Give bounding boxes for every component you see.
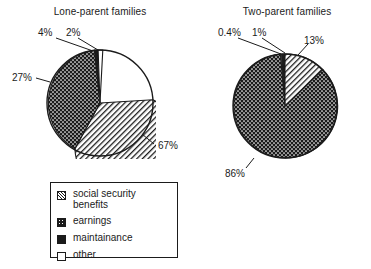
pie-right-label-other: 0.4% <box>218 27 241 38</box>
legend-item-other: other <box>57 249 177 265</box>
pie-chart-figure: Lone-parent families Two-parent families <box>0 0 371 269</box>
pie-right-label-maintainance: 1% <box>252 27 266 38</box>
pie-chart-two-parent <box>231 52 339 160</box>
pie-left-label-earnings: 27% <box>12 72 32 83</box>
pie-left-label-other: 2% <box>66 27 80 38</box>
legend-swatch-dotted-fill-icon <box>57 218 66 227</box>
legend-item-earnings: earnings <box>57 215 177 231</box>
pie-right-label-social-security-benefits: 13% <box>304 35 324 46</box>
pie-right-svg <box>231 52 339 160</box>
legend: social security benefits earnings mainta… <box>50 182 178 258</box>
legend-items: social security benefits earnings mainta… <box>51 183 177 265</box>
legend-swatch-solid-black-icon <box>57 235 66 244</box>
legend-item-social-security-benefits: social security benefits <box>57 188 177 204</box>
legend-swatch-white-empty-icon <box>57 252 66 261</box>
legend-label-other: other <box>73 249 96 260</box>
leader-line-left-other <box>78 38 98 50</box>
pie-right-label-earnings: 86% <box>225 168 245 179</box>
leader-line-left-social-security-benefits <box>142 134 154 144</box>
legend-swatch-diagonal-hatch-icon <box>57 191 66 200</box>
leader-line-left-maintainance <box>56 38 93 51</box>
leader-line-left-earnings <box>36 78 50 82</box>
legend-item-maintainance: maintainance <box>57 232 177 248</box>
pie-left-label-maintainance: 4% <box>38 27 52 38</box>
legend-label-social-security-benefits: social security benefits <box>73 188 136 210</box>
pie-left-label-social-security-benefits: 67% <box>158 140 178 151</box>
legend-label-earnings: earnings <box>73 215 111 226</box>
legend-label-maintainance: maintainance <box>73 232 132 243</box>
